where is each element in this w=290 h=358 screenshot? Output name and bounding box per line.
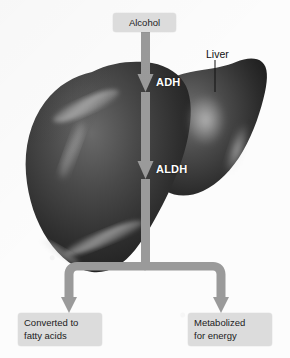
label-metabolized-for-energy: Metabolizedfor energy (188, 313, 272, 346)
arrow-stem-adh-to-aldh (141, 92, 150, 164)
converted-line-1: Converted to (24, 317, 78, 328)
branch-left-elbow (65, 262, 146, 300)
arrowhead-converted-to-fatty-acids (61, 297, 77, 313)
label-converted-to-fatty-acids: Converted tofatty acids (18, 313, 102, 346)
arrow-stem-alcohol-to-adh (141, 31, 150, 77)
label-alcohol: Alcohol (113, 13, 176, 32)
metabolized-line-2: for energy (194, 330, 237, 341)
alcohol-metabolism-figure: Alcohol Liver ADH ALDH Converted tofatty… (0, 0, 290, 358)
converted-line-2: fatty acids (24, 330, 67, 341)
arrow-stem-aldh-to-branch (141, 179, 150, 262)
label-enzyme-aldh: ALDH (156, 163, 187, 175)
liver-right-highlight (186, 94, 226, 146)
label-liver: Liver (206, 48, 229, 60)
label-enzyme-adh: ADH (156, 76, 180, 88)
branch-right-elbow (145, 262, 226, 300)
arrowhead-metabolized-for-energy (213, 297, 229, 313)
liver-diagram-illustration (0, 0, 290, 358)
metabolized-line-1: Metabolized (194, 317, 245, 328)
